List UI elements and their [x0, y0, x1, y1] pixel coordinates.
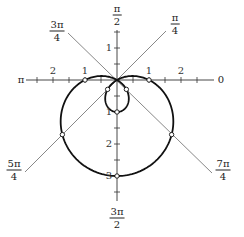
- radial-tick-label: 2: [50, 66, 56, 76]
- marked-point: [115, 174, 119, 178]
- radial-tick-label: 2: [106, 139, 112, 149]
- angle-label: π: [18, 75, 25, 85]
- marked-point: [83, 78, 87, 82]
- polar-plot: [0, 0, 244, 237]
- radial-tick-label: 2: [178, 66, 184, 76]
- angle-label: π4: [171, 13, 180, 36]
- angle-label: 7π4: [216, 159, 231, 182]
- radial-tick-label: 1: [106, 43, 112, 53]
- ray-3pi4-7pi4: [68, 33, 212, 173]
- radial-tick-label: 3: [106, 171, 112, 181]
- marked-point: [60, 132, 64, 136]
- radial-tick-label: 1: [82, 66, 88, 76]
- marked-point: [169, 132, 173, 136]
- marked-point: [105, 87, 109, 91]
- marked-point: [124, 87, 128, 91]
- angle-label: π2: [113, 4, 122, 27]
- angle-label: 5π4: [7, 159, 22, 182]
- angle-label: 0: [218, 75, 224, 85]
- angle-label: 3π4: [50, 20, 65, 43]
- radial-tick-label: 1: [146, 66, 152, 76]
- marked-point: [147, 78, 151, 82]
- angle-label: 3π2: [110, 207, 125, 230]
- angle-rays: [25, 31, 212, 173]
- ray-pi4-5pi4: [25, 31, 166, 172]
- marked-point: [115, 110, 119, 114]
- radial-tick-label: 1: [106, 107, 112, 117]
